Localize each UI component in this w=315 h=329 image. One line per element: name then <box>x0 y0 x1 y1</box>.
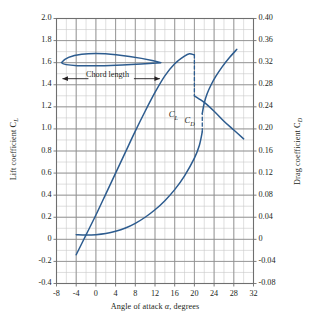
x-axis-title: Angle of attack α, degrees <box>56 302 254 311</box>
y-axis-right-tick: 0.08 <box>259 190 289 199</box>
cl-curve-label: CL <box>169 109 178 121</box>
y-axis-right-tick: -0.04 <box>259 256 289 265</box>
y-axis-left-tick: 1.8 <box>26 35 52 44</box>
y-axis-right-tick: 0.16 <box>259 146 289 155</box>
y-axis-left-tick: -0.2 <box>26 256 52 265</box>
y-axis-left-title: Lift coefficient CL <box>9 84 20 214</box>
y-axis-right-tick: 0.32 <box>259 57 289 66</box>
x-axis-tick: 32 <box>242 289 266 298</box>
y-axis-right-tick: 0.04 <box>259 212 289 221</box>
y-axis-right-tick: 0.24 <box>259 101 289 110</box>
y-axis-right-tick: 0.40 <box>259 13 289 22</box>
y-axis-right-tick: 0.12 <box>259 168 289 177</box>
y-axis-right-title: Drag coefficient CD <box>293 86 304 216</box>
y-axis-left-tick: 1.2 <box>26 101 52 110</box>
chord-length-label: Chord length <box>86 70 129 79</box>
y-axis-right-tick: 0.20 <box>259 123 289 132</box>
y-axis-left-tick: 1.6 <box>26 57 52 66</box>
y-axis-left-tick: 0 <box>26 234 52 243</box>
y-axis-right-tick: 0.28 <box>259 79 289 88</box>
y-axis-right-tick: 0 <box>259 234 289 243</box>
y-axis-left-tick: 1.4 <box>26 79 52 88</box>
y-axis-right-tick: -0.08 <box>259 278 289 287</box>
y-axis-left-tick: 0.6 <box>26 168 52 177</box>
airfoil-coefficient-chart: Lift coefficient CL Drag coefficient CD … <box>0 0 315 329</box>
y-axis-left-tick: -0.4 <box>26 278 52 287</box>
y-axis-left-tick: 2.0 <box>26 13 52 22</box>
y-axis-right-tick: 0.36 <box>259 35 289 44</box>
y-axis-left-tick: 0.8 <box>26 146 52 155</box>
y-axis-left-tick: 1.0 <box>26 123 52 132</box>
cd-curve-label: CD <box>185 115 195 127</box>
y-axis-left-tick: 0.4 <box>26 190 52 199</box>
y-axis-left-tick: 0.2 <box>26 212 52 221</box>
